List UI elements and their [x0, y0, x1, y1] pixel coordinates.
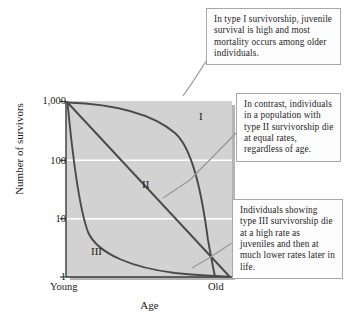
- y-tick-label-10: 10: [56, 213, 67, 224]
- y-tick-label-100: 100: [50, 155, 66, 166]
- callout-type-III: Individuals showing type III survivorshi…: [232, 199, 343, 279]
- x-tick-label-old: Old: [208, 281, 224, 292]
- y-axis-title: Number of survivors: [13, 87, 25, 212]
- x-axis-title: Age: [0, 299, 299, 311]
- callout-type-II: In contrast, individuals in a population…: [236, 93, 341, 162]
- leader-line-callout-1: [183, 60, 207, 96]
- survivorship-curve-figure: 1,000 100 10 1 Young Old Age Number of s…: [0, 0, 349, 323]
- x-tick-label-young: Young: [50, 281, 78, 292]
- curve-label-II: II: [142, 178, 149, 190]
- y-tick-label-1000: 1,000: [42, 95, 66, 106]
- callout-type-I: In type I survivorship, juvenile surviva…: [206, 8, 341, 65]
- curve-label-I: I: [199, 110, 203, 122]
- curve-label-III: III: [91, 245, 102, 257]
